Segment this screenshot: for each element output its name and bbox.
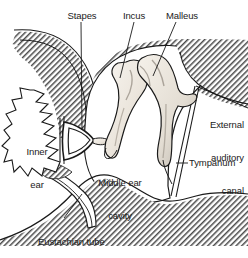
middle-ear-diagram: Stapes Incus Malleus External auditory c…: [0, 0, 248, 258]
label-inner-ear-line1: Inner: [16, 146, 58, 157]
label-middle-ear-cavity: Middle ear cavity: [84, 155, 156, 243]
label-inner-ear: Inner ear: [16, 124, 58, 212]
label-external-auditory-canal-line1: External: [186, 119, 244, 130]
label-tympanum: Tympanum: [189, 157, 247, 168]
label-malleus: Malleus: [156, 10, 208, 21]
label-inner-ear-line2: ear: [16, 179, 58, 190]
label-stapes: Stapes: [56, 10, 108, 21]
label-middle-ear-cavity-line1: Middle ear: [84, 177, 156, 188]
label-eustachian-tube: Eustachian tube: [38, 236, 148, 247]
label-incus: Incus: [111, 10, 157, 21]
label-middle-ear-cavity-line2: cavity: [84, 210, 156, 221]
label-external-auditory-canal-line3: canal: [186, 185, 244, 196]
